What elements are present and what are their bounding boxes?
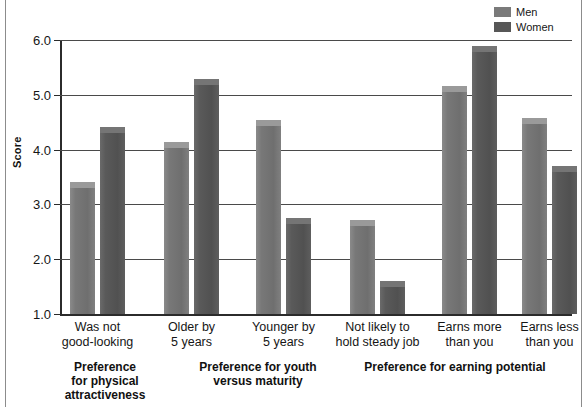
group-title-2: Preference for youthversus maturity bbox=[168, 360, 348, 388]
bar-women-4 bbox=[380, 281, 405, 314]
bar-top-highlight bbox=[256, 120, 281, 126]
category-label-line2: than you bbox=[495, 335, 588, 350]
legend-swatch-men-icon bbox=[494, 7, 511, 17]
group-title-3: Preference for earning potential bbox=[330, 360, 580, 374]
bar-men-6 bbox=[522, 118, 547, 314]
bar-top-highlight bbox=[442, 86, 467, 92]
y-tick-1.0 bbox=[54, 314, 60, 315]
group-titles: Preferencefor physicalattractivenessPref… bbox=[0, 360, 588, 407]
bar-top-highlight bbox=[164, 142, 189, 148]
y-tick-label-2.0: 2.0 bbox=[33, 252, 51, 267]
bar-body bbox=[70, 182, 95, 314]
bar-body bbox=[100, 127, 125, 314]
bar-top-highlight bbox=[522, 118, 547, 124]
group-title-1: Preferencefor physicalattractiveness bbox=[40, 360, 170, 402]
group-title-line1: Preference bbox=[40, 360, 170, 374]
group-title-line2: for physical bbox=[40, 374, 170, 388]
bar-top-highlight bbox=[472, 46, 497, 52]
y-tick-label-6.0: 6.0 bbox=[33, 33, 51, 48]
y-tick-4.0 bbox=[54, 150, 60, 151]
bar-women-2 bbox=[194, 79, 219, 314]
legend-swatch-women-icon bbox=[494, 22, 511, 32]
bar-men-3 bbox=[256, 120, 281, 314]
bar-body bbox=[350, 220, 375, 314]
y-tick-label-5.0: 5.0 bbox=[33, 87, 51, 102]
bar-body bbox=[552, 166, 577, 315]
page-border-left bbox=[5, 0, 6, 407]
bar-top-highlight bbox=[194, 79, 219, 85]
bar-body bbox=[442, 86, 467, 314]
bar-women-1 bbox=[100, 127, 125, 314]
bar-women-5 bbox=[472, 46, 497, 314]
legend-item-men: Men bbox=[494, 5, 578, 18]
bar-body bbox=[194, 79, 219, 314]
bar-body bbox=[472, 46, 497, 314]
bar-men-2 bbox=[164, 142, 189, 314]
legend-item-women: Women bbox=[494, 20, 578, 33]
bar-men-1 bbox=[70, 182, 95, 314]
gridline-6.0 bbox=[60, 40, 572, 41]
legend-label-women: Women bbox=[516, 21, 554, 33]
bar-top-highlight bbox=[70, 182, 95, 188]
group-title-line1: Preference for youth bbox=[168, 360, 348, 374]
y-tick-6.0 bbox=[54, 40, 60, 41]
bar-body bbox=[164, 142, 189, 314]
bar-top-highlight bbox=[380, 281, 405, 287]
y-axis-spine bbox=[60, 40, 62, 316]
bar-women-6 bbox=[552, 166, 577, 315]
category-axis-labels: Was notgood-lookingOlder by5 yearsYounge… bbox=[60, 320, 572, 354]
chart-legend: Men Women bbox=[494, 5, 578, 35]
y-axis-title: Score bbox=[11, 136, 23, 168]
bar-body bbox=[256, 120, 281, 314]
bar-men-5 bbox=[442, 86, 467, 314]
y-tick-label-3.0: 3.0 bbox=[33, 197, 51, 212]
bar-men-4 bbox=[350, 220, 375, 314]
group-title-line3: attractiveness bbox=[40, 388, 170, 402]
category-label-6: Earns lessthan you bbox=[495, 320, 588, 350]
bar-top-highlight bbox=[552, 166, 577, 172]
category-label-line1: Earns less bbox=[495, 320, 588, 335]
plot-area: 6.05.04.03.02.01.0 bbox=[60, 40, 572, 316]
y-tick-5.0 bbox=[54, 95, 60, 96]
group-title-line1: Preference for earning potential bbox=[330, 360, 580, 374]
figure-frame: Men Women Score 6.05.04.03.02.01.0 Was n… bbox=[0, 0, 588, 407]
bar-top-highlight bbox=[350, 220, 375, 226]
x-axis-baseline bbox=[60, 314, 572, 316]
bar-body bbox=[522, 118, 547, 314]
bar-women-3 bbox=[286, 218, 311, 314]
bar-top-highlight bbox=[286, 218, 311, 224]
y-tick-2.0 bbox=[54, 259, 60, 260]
group-title-line2: versus maturity bbox=[168, 374, 348, 388]
legend-label-men: Men bbox=[516, 6, 537, 18]
y-tick-label-4.0: 4.0 bbox=[33, 142, 51, 157]
bar-body bbox=[286, 218, 311, 314]
y-tick-3.0 bbox=[54, 204, 60, 205]
bar-top-highlight bbox=[100, 127, 125, 133]
